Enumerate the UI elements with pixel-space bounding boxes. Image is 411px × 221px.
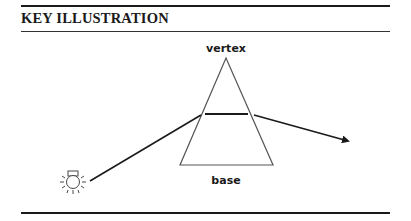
- emergent-ray-arrow: [254, 115, 348, 141]
- light-bulb-icon: [60, 171, 86, 194]
- prism-triangle: [180, 58, 273, 165]
- prism-diagram: vertex base: [0, 0, 411, 221]
- base-label: base: [211, 174, 240, 187]
- vertex-label: vertex: [206, 42, 246, 55]
- bottom-rule: [21, 212, 390, 214]
- incident-ray: [90, 115, 201, 181]
